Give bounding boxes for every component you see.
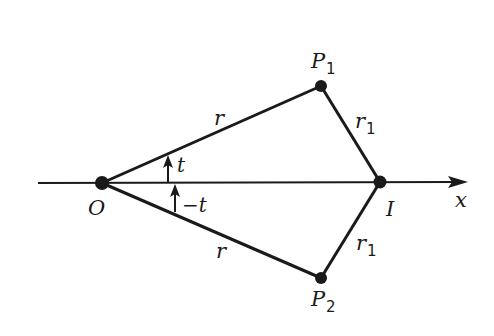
label-angle-t: t xyxy=(177,153,186,177)
label-p1-sub: 1 xyxy=(326,60,336,78)
label-r-lower: r xyxy=(216,239,228,263)
point-p2 xyxy=(315,272,327,284)
label-i: I xyxy=(385,197,395,221)
label-angle-minus-t: −t xyxy=(182,193,208,217)
point-i xyxy=(374,176,387,189)
point-p1 xyxy=(315,80,327,92)
angle-arrow-upper xyxy=(163,155,173,182)
label-p2: P xyxy=(310,287,326,311)
geometry-diagram: O I x P 1 P 2 r r r 1 r 1 t −t xyxy=(0,0,494,336)
edge-o-p1 xyxy=(102,86,321,183)
label-r1-lower-sub: 1 xyxy=(367,242,377,260)
label-o: O xyxy=(88,196,105,220)
label-r-upper: r xyxy=(214,106,226,130)
label-r1-upper-sub: 1 xyxy=(366,120,376,138)
point-o xyxy=(95,176,109,190)
angle-arrow-lower xyxy=(170,184,180,212)
edge-o-p2 xyxy=(102,183,321,278)
diagram-canvas: O I x P 1 P 2 r r r 1 r 1 t −t xyxy=(0,0,494,336)
label-p1: P xyxy=(310,49,326,73)
edge-p2-i xyxy=(321,182,380,278)
label-p2-sub: 2 xyxy=(326,298,336,316)
label-x-axis: x xyxy=(455,188,467,212)
